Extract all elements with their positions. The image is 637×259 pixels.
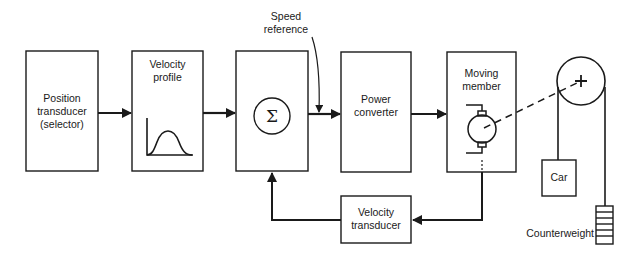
speed-reference-pointer [312, 37, 319, 112]
label-position-transducer: Position transducer (selector) [26, 92, 98, 131]
label-velocity-transducer: Velocity transducer [341, 206, 411, 232]
label-velocity-profile: Velocity profile [132, 58, 203, 84]
label-power-converter: Power converter [341, 93, 411, 119]
label-line: Speed [256, 10, 316, 23]
label-line: Position [26, 92, 98, 105]
label-line: reference [256, 23, 316, 36]
label-line: member [447, 80, 516, 93]
dc-motor-icon [466, 105, 496, 153]
label-car: Car [542, 171, 576, 184]
counterweight-icon [596, 206, 613, 244]
label-moving-member: Moving member [447, 67, 516, 93]
label-line: Power [341, 93, 411, 106]
label-line: transducer [26, 105, 98, 118]
label-line: (selector) [26, 118, 98, 131]
label-counterweight: Counterweight [520, 227, 594, 240]
label-line: Velocity [341, 206, 411, 219]
label-line: Moving [447, 67, 516, 80]
label-line: transducer [341, 219, 411, 232]
label-line: profile [132, 71, 203, 84]
velocity-profile-curve-icon [147, 118, 193, 155]
label-line: Velocity [132, 58, 203, 71]
label-speed-reference: Speed reference [256, 10, 316, 36]
pulley-axle-icon [575, 75, 587, 87]
feedback-line-to-summing [272, 173, 341, 220]
sigma-symbol: Σ [266, 106, 278, 126]
feedback-line-to-transducer [413, 172, 482, 220]
label-line: converter [341, 106, 411, 119]
